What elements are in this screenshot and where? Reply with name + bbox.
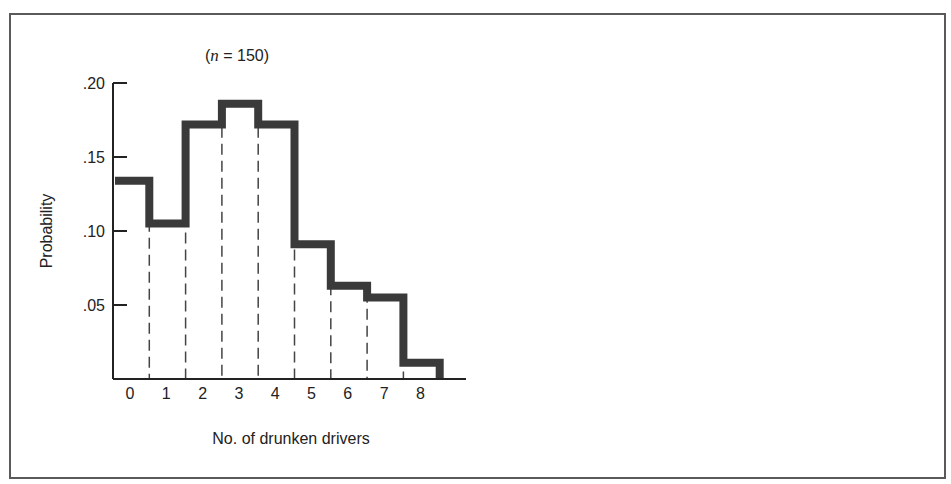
y-axis-ticks: .05.10.15.20 [83,75,127,314]
x-tick-label: 2 [198,385,207,402]
y-tick-label: .05 [83,297,105,314]
x-tick-label: 0 [126,385,135,402]
x-tick-label: 3 [234,385,243,402]
x-tick-label: 8 [416,385,425,402]
x-axis-tick-labels: 012345678 [126,385,425,402]
x-tick-label: 4 [271,385,280,402]
x-tick-label: 6 [343,385,352,402]
x-tick-label: 1 [162,385,171,402]
y-axis-title: Probability [38,194,55,269]
sample-size-annotation: (n = 150) [205,46,269,65]
y-tick-label: .20 [83,75,105,92]
annotation-rest: = 150) [219,47,269,64]
histogram-chart: .05.10.15.20 012345678 No. of drunken dr… [0,0,951,484]
x-axis-title: No. of drunken drivers [212,430,369,447]
x-tick-label: 7 [380,385,389,402]
annotation-var: n [210,46,219,65]
x-tick-label: 5 [307,385,316,402]
y-tick-label: .15 [83,149,105,166]
probability-step-line [115,104,440,379]
y-tick-label: .10 [83,223,105,240]
